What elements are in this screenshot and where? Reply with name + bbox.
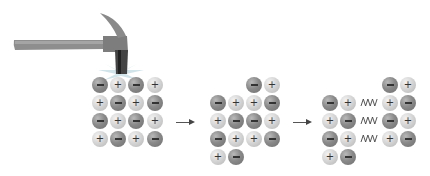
right-arrow-icon	[293, 122, 310, 123]
zigzag-repulsion-icon	[361, 117, 377, 124]
zigzag-repulsion-icon	[361, 135, 377, 142]
right-arrow-icon	[176, 122, 193, 123]
zigzag-repulsion-icon	[361, 99, 377, 106]
repulsion-marks	[0, 0, 430, 176]
